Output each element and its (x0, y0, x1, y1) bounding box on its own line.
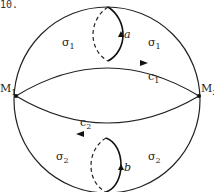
loop-a-label: a (124, 28, 131, 41)
curve-c2 (16, 96, 199, 123)
node-m1-label: M1 (0, 82, 16, 97)
node-m2-label: M2 (201, 82, 214, 97)
region-sigma1-right: σ1 (148, 36, 161, 51)
figure-number: 10. (0, 0, 18, 10)
region-sigma1-left: σ1 (62, 36, 75, 51)
diagram-canvas: 10. M1 M2 σ1 σ1 σ2 σ2 c1 c2 a b (0, 0, 214, 192)
curve-c1 (16, 68, 199, 96)
loop-b-front (106, 138, 121, 192)
loop-b-back (91, 138, 106, 192)
region-sigma2-right: σ2 (148, 150, 161, 165)
curve-c2-label: c2 (80, 116, 91, 131)
c2-arrow-icon (76, 131, 84, 137)
outer-boundary (14, 7, 200, 192)
loop-a-back (93, 7, 108, 61)
loop-b-label: b (124, 161, 131, 174)
curve-c1-label: c1 (148, 70, 159, 85)
c1-arrow-icon (140, 60, 148, 66)
region-sigma2-left: σ2 (56, 150, 69, 165)
